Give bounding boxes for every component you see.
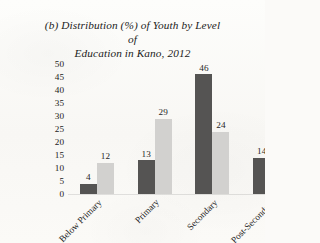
x-axis: Below PrimaryPrimarySecondaryPost-Second… bbox=[68, 194, 265, 243]
y-axis-tick-5: 5 bbox=[59, 176, 64, 186]
bar-value-label: 4 bbox=[86, 172, 91, 182]
y-axis-tick-50: 50 bbox=[55, 59, 64, 69]
bar-secondary-series-b: 24 bbox=[212, 64, 229, 194]
bar-primary-series-b: 29 bbox=[155, 64, 172, 194]
bar-rect bbox=[138, 160, 155, 194]
bar-value-label: 24 bbox=[216, 120, 225, 130]
y-axis-tick-35: 35 bbox=[55, 98, 64, 108]
bar-value-label: 13 bbox=[142, 149, 151, 159]
y-axis-tick-40: 40 bbox=[55, 85, 64, 95]
bar-group-0: 412 bbox=[68, 64, 126, 194]
x-axis-tick-secondary: Secondary bbox=[185, 197, 219, 231]
bars-layer: 41213294624145 bbox=[68, 64, 265, 194]
chart-title-line-1: (b) Distribution (%) of Youth by Level o… bbox=[40, 18, 225, 46]
bar-rect bbox=[195, 74, 212, 194]
y-axis-tick-20: 20 bbox=[55, 137, 64, 147]
bar-value-label: 46 bbox=[199, 63, 208, 73]
y-axis-tick-10: 10 bbox=[55, 163, 64, 173]
plot-area: 41213294624145 bbox=[68, 64, 265, 194]
x-axis-tick-primary: Primary bbox=[133, 197, 161, 225]
bar-post-secondary-series-a: 14 bbox=[253, 64, 265, 194]
chart-title-line-2: Education in Kano, 2012 bbox=[40, 46, 225, 60]
bar-rect bbox=[80, 184, 97, 194]
bar-below-primary-series-a: 4 bbox=[80, 64, 97, 194]
y-axis-tick-25: 25 bbox=[55, 124, 64, 134]
bar-group-2: 4624 bbox=[184, 64, 242, 194]
chart-title: (b) Distribution (%) of Youth by Level o… bbox=[40, 18, 225, 60]
bar-group-1: 1329 bbox=[126, 64, 184, 194]
bar-value-label: 29 bbox=[159, 107, 168, 117]
bar-rect bbox=[97, 163, 114, 194]
y-axis-tick-45: 45 bbox=[55, 72, 64, 82]
bar-primary-series-a: 13 bbox=[138, 64, 155, 194]
bar-chart-figure: (b) Distribution (%) of Youth by Level o… bbox=[40, 16, 225, 227]
bar-rect bbox=[155, 119, 172, 194]
y-axis-tick-15: 15 bbox=[55, 150, 64, 160]
x-axis-tick-post-secondary: Post-Secondary bbox=[229, 197, 265, 243]
y-axis-tick-0: 0 bbox=[59, 189, 64, 199]
bar-below-primary-series-b: 12 bbox=[97, 64, 114, 194]
bar-value-label: 14 bbox=[257, 146, 265, 156]
bar-rect bbox=[253, 158, 265, 194]
bar-group-3: 145 bbox=[241, 64, 265, 194]
y-axis-tick-30: 30 bbox=[55, 111, 64, 121]
x-axis-tick-below-primary: Below Primary bbox=[57, 197, 104, 243]
bar-rect bbox=[212, 132, 229, 194]
bar-secondary-series-a: 46 bbox=[195, 64, 212, 194]
bar-value-label: 12 bbox=[101, 151, 110, 161]
y-axis: 50454035302520151050 bbox=[40, 64, 66, 194]
